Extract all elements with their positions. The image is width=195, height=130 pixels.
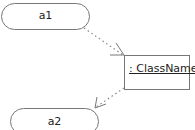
action-label-a1: a1 — [1, 9, 90, 23]
action-label-a2: a2 — [10, 115, 99, 129]
object-flow-object-to-a2[interactable] — [96, 88, 124, 107]
object-flow-a1-to-object[interactable] — [84, 28, 123, 55]
arrowhead-icon — [110, 43, 124, 55]
object-label-classname: : ClassName — [129, 62, 195, 76]
